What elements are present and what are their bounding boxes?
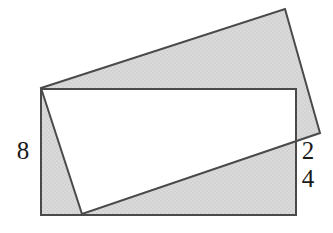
dimension-label-4: 4 (296, 166, 320, 191)
geometry-figure: 8 2 4 (0, 0, 333, 233)
figure-canvas (0, 0, 333, 233)
dimension-label-8: 8 (11, 138, 35, 163)
dimension-label-2: 2 (296, 138, 320, 163)
